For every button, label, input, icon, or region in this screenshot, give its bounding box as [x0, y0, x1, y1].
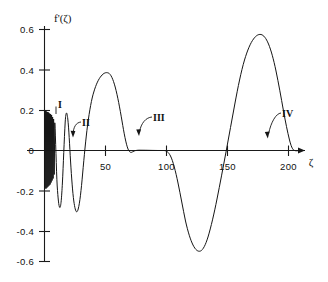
plot-figure: 0.6 0.4 0.2 0 -0.2 -0.4 -0.6 50 100 150 … [0, 0, 328, 282]
annotation-IV-label: IV [282, 108, 294, 119]
x-tick-label-1: 100 [158, 161, 175, 172]
data-curve-group [45, 34, 305, 251]
y-tick-label-6: -0.6 [16, 256, 34, 267]
y-axis-title: f'(ζ) [54, 12, 72, 25]
y-tick-label-0: 0.6 [20, 24, 34, 35]
annotation-III-arrowhead [136, 129, 141, 136]
axes-group [27, 26, 305, 262]
x-tick-label-3: 200 [280, 161, 297, 172]
y-tick-label-4: -0.2 [16, 186, 34, 197]
annotation-III-label: III [153, 112, 165, 123]
annotation-IV-arrowhead [265, 132, 270, 139]
annotation-II-label: II [82, 117, 90, 128]
annotation-II-arrowhead [71, 131, 76, 138]
annotation-I-label: I [58, 99, 62, 110]
annotation-IV-leader [269, 113, 282, 134]
y-tick-label-3: 0 [28, 145, 34, 156]
x-tick-label-2: 150 [219, 161, 236, 172]
plot-svg: 0.6 0.4 0.2 0 -0.2 -0.4 -0.6 50 100 150 … [0, 0, 328, 282]
curve-burst-region-I [45, 111, 55, 189]
y-tick-label-1: 0.4 [20, 65, 34, 76]
y-tick-label-2: 0.2 [20, 105, 34, 116]
curve-main [55, 34, 305, 251]
annotation-IV: IV [265, 108, 294, 139]
annotation-III: III [136, 112, 165, 136]
y-tick-label-5: -0.4 [16, 226, 34, 237]
annotation-III-leader [140, 117, 153, 132]
annotation-II: II [71, 117, 90, 138]
x-tick-label-0: 50 [100, 161, 111, 172]
x-tick-group: 50 100 150 200 [100, 146, 297, 173]
x-axis-title: ζ [309, 156, 314, 169]
annotation-I: I [56, 99, 62, 114]
